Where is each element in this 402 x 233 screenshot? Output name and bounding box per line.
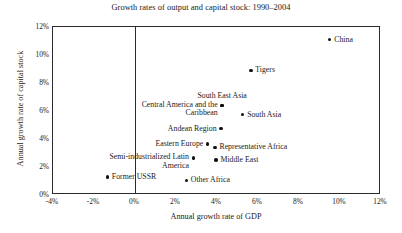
data-point-label: China xyxy=(334,35,353,44)
data-point[interactable] xyxy=(213,146,216,149)
data-point-label: Former USSR xyxy=(112,173,156,182)
data-point[interactable] xyxy=(106,175,109,178)
data-point-label: Semi-industrialized Latin America xyxy=(97,153,189,170)
data-point[interactable] xyxy=(214,158,217,161)
data-point-label: South Asia xyxy=(247,110,281,119)
data-point-label: Tigers xyxy=(255,66,275,75)
data-point-label: Andean Region xyxy=(168,124,217,133)
y-tick-label: 12% xyxy=(23,22,49,31)
data-point-label: Other Africa xyxy=(191,176,230,185)
x-axis-title: Annual growth rate of GDP xyxy=(52,212,380,221)
y-axis-title: Annual growth rate of capital stock xyxy=(16,19,25,199)
x-tick-label: 4% xyxy=(199,197,233,206)
y-tick-label: 4% xyxy=(23,134,49,143)
data-point[interactable] xyxy=(219,127,222,130)
data-point[interactable] xyxy=(328,38,331,41)
x-tick-label: 10% xyxy=(322,197,356,206)
y-tick-label: 8% xyxy=(23,78,49,87)
data-point-label: Central America and the Caribbean xyxy=(126,101,218,118)
data-point-label: Middle East xyxy=(220,156,258,165)
x-tick-label: 12% xyxy=(363,197,397,206)
data-point[interactable] xyxy=(249,69,252,72)
x-axis-tick-labels: -4%-2%0%2%4%6%8%10%12% xyxy=(52,197,380,209)
x-tick-label: -2% xyxy=(76,197,110,206)
x-tick-label: 2% xyxy=(158,197,192,206)
data-point[interactable] xyxy=(192,156,195,159)
data-point[interactable] xyxy=(241,113,244,116)
y-tick-label: 10% xyxy=(23,50,49,59)
data-point[interactable] xyxy=(220,104,223,107)
data-point-label: Eastern Europe xyxy=(155,140,203,149)
x-tick-label: 6% xyxy=(240,197,274,206)
data-point-label: Representative Africa xyxy=(219,143,287,152)
y-tick-label: 6% xyxy=(23,106,49,115)
data-point[interactable] xyxy=(206,142,209,145)
data-point[interactable] xyxy=(185,179,188,182)
chart-title: Growth rates of output and capital stock… xyxy=(0,3,402,12)
plot-area: ChinaTigersSouth East AsiaSouth AsiaCent… xyxy=(52,26,380,194)
x-tick-label: 0% xyxy=(117,197,151,206)
y-tick-label: 2% xyxy=(23,162,49,171)
scatter-chart-figure: Growth rates of output and capital stock… xyxy=(0,0,402,233)
x-tick-label: -4% xyxy=(35,197,69,206)
x-tick-label: 8% xyxy=(281,197,315,206)
